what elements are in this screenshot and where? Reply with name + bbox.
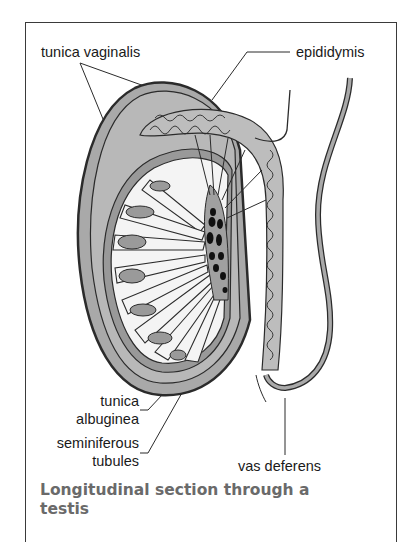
label-tunica-albuginea-line1: tunica: [40, 393, 139, 410]
label-tunica-vaginalis: tunica vaginalis: [41, 44, 140, 61]
caption-line1: Longitudinal section through a: [40, 481, 310, 500]
figure-caption: Longitudinal section through a testis: [40, 481, 310, 519]
label-tunica-albuginea-line2: albuginea: [40, 411, 139, 428]
label-seminiferous-line1: seminiferous: [30, 435, 139, 452]
caption-line2: testis: [40, 500, 310, 519]
label-vas-deferens: vas deferens: [238, 458, 321, 475]
label-epididymis: epididymis: [296, 44, 365, 61]
label-seminiferous-line2: tubules: [30, 453, 139, 470]
